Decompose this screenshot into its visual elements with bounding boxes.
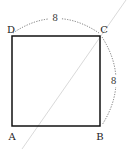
dimension-label-dc: 8 [52,13,58,23]
vertex-label-d: D [7,24,15,35]
vertex-label-b: B [96,131,103,142]
square-abcd [12,36,100,126]
vertex-label-c: C [100,24,108,35]
vertex-label-a: A [7,131,16,142]
square-diagram: 8 8 A B C D [0,0,130,149]
dimension-label-cb: 8 [111,76,117,86]
